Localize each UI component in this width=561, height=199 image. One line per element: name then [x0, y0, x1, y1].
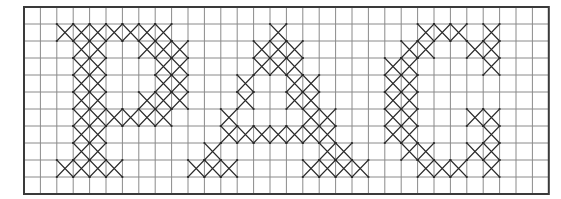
stitch-dot — [138, 108, 140, 110]
stitch-dot — [56, 40, 58, 42]
stitch-dot — [269, 74, 271, 76]
stitch-dot — [449, 176, 451, 178]
cross-stitch-icon — [434, 24, 450, 41]
stitch-dot — [56, 159, 58, 161]
cross-stitch-icon — [155, 24, 171, 41]
stitch-dot — [466, 108, 468, 110]
stitch-dot — [482, 125, 484, 127]
stitch-grid — [0, 0, 561, 199]
stitch-dot — [203, 142, 205, 144]
stitch-dot — [171, 40, 173, 42]
stitch-dot — [253, 108, 255, 110]
stitch-dot — [466, 159, 468, 161]
stitch-dot — [236, 91, 238, 93]
cross-stitch-icon — [90, 126, 106, 143]
stitch-dot — [318, 176, 320, 178]
cross-stitch-icon — [155, 75, 171, 92]
cross-stitch-icon — [122, 109, 138, 126]
cross-stitch-icon — [319, 143, 335, 160]
stitch-dot — [482, 57, 484, 59]
cross-stitch-icon — [483, 58, 499, 75]
stitch-dot — [72, 23, 74, 25]
stitch-dot — [433, 23, 435, 25]
stitch-dot — [89, 40, 91, 42]
stitch-dot — [253, 142, 255, 144]
stitch-dot — [285, 23, 287, 25]
stitch-dot — [499, 57, 501, 59]
stitch-dot — [269, 23, 271, 25]
stitch-dot — [302, 176, 304, 178]
stitch-dot — [72, 74, 74, 76]
stitch-dot — [187, 74, 189, 76]
stitch-dot — [89, 142, 91, 144]
stitch-dot — [449, 159, 451, 161]
stitch-dot — [466, 142, 468, 144]
stitch-dot — [269, 40, 271, 42]
cross-stitch-icon — [254, 58, 270, 75]
stitch-dot — [56, 176, 58, 178]
stitch-dot — [89, 108, 91, 110]
cross-stitch-icon — [270, 126, 286, 143]
stitch-dot — [499, 74, 501, 76]
stitch-dot — [138, 23, 140, 25]
stitch-dot — [154, 125, 156, 127]
cross-stitch-icon — [90, 109, 106, 126]
cross-stitch-icon — [237, 126, 253, 143]
stitch-dot — [121, 108, 123, 110]
stitch-dot — [138, 91, 140, 93]
cross-stitch-icon — [90, 160, 106, 177]
stitch-dot — [187, 176, 189, 178]
stitch-dot — [89, 74, 91, 76]
stitch-dot — [499, 142, 501, 144]
stitch-dot — [154, 23, 156, 25]
stitch-dot — [433, 142, 435, 144]
stitch-dot — [121, 125, 123, 127]
cross-stitch-icon — [418, 24, 434, 41]
stitch-dot — [121, 159, 123, 161]
cross-stitch-icon — [401, 143, 417, 160]
stitch-dot — [417, 74, 419, 76]
stitch-dot — [105, 74, 107, 76]
stitch-dot — [400, 74, 402, 76]
cross-stitch-icon — [254, 126, 270, 143]
stitch-dot — [121, 176, 123, 178]
stitch-dot — [89, 176, 91, 178]
cross-stitch-icon — [303, 126, 319, 143]
stitch-dot — [269, 125, 271, 127]
stitch-dot — [105, 40, 107, 42]
stitch-dot — [302, 57, 304, 59]
stitch-dot — [318, 142, 320, 144]
stitch-dot — [187, 57, 189, 59]
stitch-dot — [302, 125, 304, 127]
stitch-dot — [335, 142, 337, 144]
stitch-dot — [482, 142, 484, 144]
stitch-dot — [466, 125, 468, 127]
cross-stitch-icon — [401, 41, 417, 58]
cross-stitch-icon — [483, 24, 499, 41]
stitch-dot — [302, 159, 304, 161]
stitch-dot — [400, 108, 402, 110]
stitch-dot — [499, 159, 501, 161]
stitch-dot — [302, 91, 304, 93]
stitch-dot — [499, 125, 501, 127]
cross-stitch-icon — [90, 75, 106, 92]
stitch-dot — [89, 125, 91, 127]
stitch-dot — [384, 91, 386, 93]
cross-stitch-icon — [401, 58, 417, 75]
stitch-dot — [203, 159, 205, 161]
stitch-dot — [482, 23, 484, 25]
stitch-dot — [220, 108, 222, 110]
stitch-dot — [417, 57, 419, 59]
stitch-dot — [482, 176, 484, 178]
cross-stitch-icon — [73, 41, 89, 58]
cross-stitch-icon — [303, 109, 319, 126]
stitch-dot — [220, 142, 222, 144]
stitch-dot — [187, 40, 189, 42]
stitch-dot — [89, 57, 91, 59]
stitch-dot — [105, 176, 107, 178]
cross-stitch-icon — [106, 160, 122, 177]
stitch-dot — [400, 159, 402, 161]
stitch-dot — [417, 23, 419, 25]
stitch-dot — [171, 57, 173, 59]
stitch-dot — [236, 142, 238, 144]
